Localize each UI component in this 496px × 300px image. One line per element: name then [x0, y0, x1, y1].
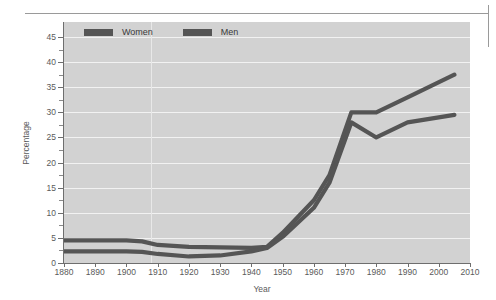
x-tick-label-1910: 1910 [142, 268, 174, 277]
x-tick-label-1950: 1950 [267, 268, 299, 277]
x-tick-label-1940: 1940 [235, 268, 267, 277]
legend-label-women: Women [122, 28, 153, 37]
x-tick-label-1930: 1930 [204, 268, 236, 277]
y-tick-label-45: 45 [30, 33, 56, 42]
series-line-women [64, 75, 454, 248]
page-rule-top [25, 13, 488, 14]
x-axis-line [63, 263, 470, 264]
legend-label-men: Men [221, 28, 239, 37]
y-tick-label-10: 10 [30, 209, 56, 218]
x-tick-label-2010: 2010 [454, 268, 486, 277]
y-axis-title: Percentage [21, 108, 31, 178]
y-tick-label-40: 40 [30, 58, 56, 67]
page-rule-right [488, 5, 489, 47]
y-tick-label-20: 20 [30, 159, 56, 168]
series-line-men [64, 115, 454, 257]
x-tick-label-2000: 2000 [423, 268, 455, 277]
legend-swatch-women [84, 29, 113, 36]
x-tick-label-1990: 1990 [392, 268, 424, 277]
legend-swatch-men [183, 29, 212, 36]
chart-legend: WomenMen [84, 26, 268, 38]
x-tick-label-1920: 1920 [173, 268, 205, 277]
legend-entry-men: Men [183, 28, 239, 37]
x-axis-title: Year [232, 284, 292, 294]
x-tick-label-1890: 1890 [79, 268, 111, 277]
y-tick-label-30: 30 [30, 108, 56, 117]
y-axis-tick-labels: 051015202530354045 [28, 0, 56, 300]
x-tick-label-1970: 1970 [329, 268, 361, 277]
y-tick-label-5: 5 [30, 234, 56, 243]
x-tick-label-1900: 1900 [110, 268, 142, 277]
y-tick-label-25: 25 [30, 133, 56, 142]
x-tick-label-1980: 1980 [360, 268, 392, 277]
x-tick-label-1880: 1880 [48, 268, 80, 277]
series-lines-group [64, 22, 470, 263]
x-tick-label-1960: 1960 [298, 268, 330, 277]
chart-figure: 051015202530354045 188018901900191019201… [0, 0, 496, 300]
y-tick-label-0: 0 [30, 259, 56, 268]
y-tick-label-35: 35 [30, 83, 56, 92]
legend-entry-women: Women [84, 28, 153, 37]
y-tick-label-15: 15 [30, 184, 56, 193]
